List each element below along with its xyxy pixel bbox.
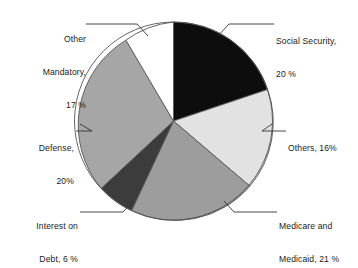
pie-label-others-line1: Others, 16% xyxy=(288,143,358,154)
pie-label-other-mandatory-line2: Mandatory, xyxy=(8,67,86,78)
pie-label-defense: Defense, 20% xyxy=(6,121,74,209)
pie-label-defense-line1: Defense, xyxy=(6,143,74,154)
leader-line-social-security xyxy=(218,24,274,36)
pie-label-medicare-line2: Medicaid, 21 % xyxy=(279,254,358,265)
pie-label-social-security-line1: Social Security, xyxy=(276,36,356,47)
pie-label-defense-line2: 20% xyxy=(6,176,74,187)
pie-label-other-mandatory-line1: Other xyxy=(8,34,86,45)
pie-label-medicare-line1: Medicare and xyxy=(279,221,358,232)
pie-label-interest-line1: Interest on xyxy=(6,221,78,232)
pie-label-social-security-line2: 20 % xyxy=(276,69,356,80)
pie-label-social-security: Social Security, 20 % xyxy=(276,14,356,102)
pie-label-other-mandatory-line3: 17 % xyxy=(8,100,86,111)
pie-label-others: Others, 16% xyxy=(288,121,358,176)
pie-label-medicare-and-medicaid: Medicare and Medicaid, 21 % xyxy=(279,199,358,268)
pie-label-interest-on-debt: Interest on Debt, 6 % xyxy=(6,199,78,268)
pie-label-interest-line2: Debt, 6 % xyxy=(6,254,78,265)
pie-label-other-mandatory: Other Mandatory, 17 % xyxy=(8,12,86,133)
